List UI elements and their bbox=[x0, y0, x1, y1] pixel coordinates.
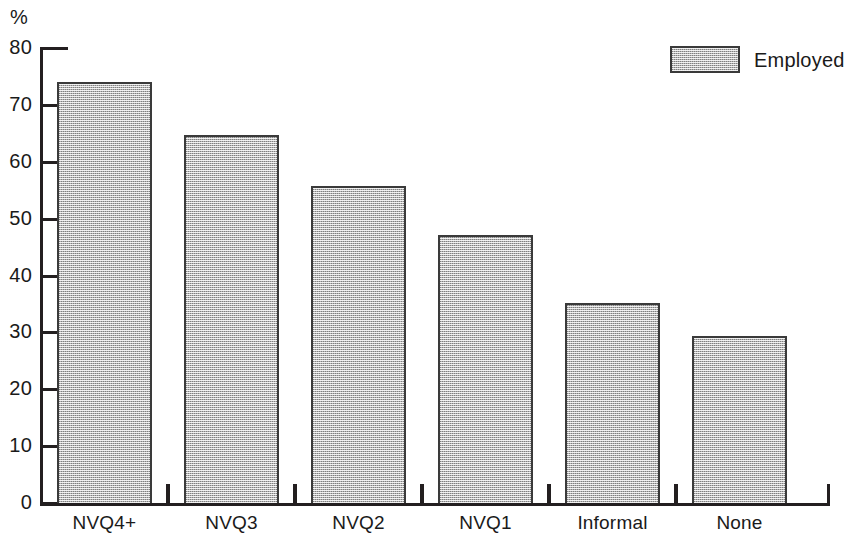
x-axis-end-cap bbox=[40, 484, 43, 506]
bar bbox=[438, 235, 533, 505]
x-axis-tick bbox=[166, 484, 170, 504]
y-axis-tick-label: 50 bbox=[0, 208, 32, 228]
y-axis-tick-label: 10 bbox=[0, 435, 32, 455]
legend-swatch-employed bbox=[670, 46, 740, 73]
x-axis-category-label: NVQ2 bbox=[291, 512, 426, 534]
y-axis-tick-label: 80 bbox=[0, 37, 32, 57]
y-axis-tick-label: 70 bbox=[0, 94, 32, 114]
x-axis-category-label: None bbox=[672, 512, 807, 534]
legend-label-employed: Employed bbox=[754, 50, 845, 70]
chart-legend: Employed bbox=[670, 46, 845, 73]
x-axis-tick bbox=[293, 484, 297, 504]
bar bbox=[692, 336, 787, 505]
bar bbox=[184, 135, 279, 505]
y-axis-unit-label: % bbox=[10, 6, 28, 29]
y-axis-tick-label: 40 bbox=[0, 265, 32, 285]
bar bbox=[57, 82, 152, 505]
bar bbox=[565, 303, 660, 505]
x-axis-line bbox=[40, 503, 830, 506]
x-axis-tick bbox=[420, 484, 424, 504]
x-axis-category-label: NVQ4+ bbox=[37, 512, 172, 534]
x-axis-end-cap bbox=[827, 484, 830, 506]
y-axis-tick-label: 20 bbox=[0, 378, 32, 398]
x-axis-category-label: Informal bbox=[545, 512, 680, 534]
x-axis-tick bbox=[674, 484, 678, 504]
y-axis-tick-label: 0 bbox=[0, 492, 32, 512]
bar bbox=[311, 186, 406, 505]
y-axis-tick-label: 60 bbox=[0, 151, 32, 171]
x-axis-category-label: NVQ3 bbox=[164, 512, 299, 534]
y-axis-tick-label: 30 bbox=[0, 321, 32, 341]
y-axis-tick bbox=[40, 47, 68, 50]
x-axis-tick bbox=[547, 484, 551, 504]
x-axis-category-label: NVQ1 bbox=[418, 512, 553, 534]
